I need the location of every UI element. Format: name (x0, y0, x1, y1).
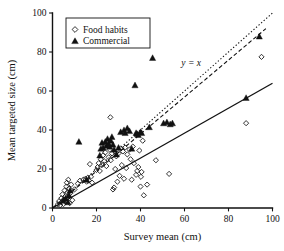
data-point-food-habits (121, 176, 126, 181)
y-tick-label-80: 80 (37, 47, 47, 57)
data-point-commercial (109, 134, 115, 140)
data-point-food-habits (87, 162, 92, 167)
data-point-food-habits (106, 155, 111, 160)
x-tick-label-80: 80 (224, 214, 234, 224)
data-point-food-habits (137, 148, 142, 153)
plot-canvas: 020406080100020406080100Survey mean (cm)… (0, 0, 284, 251)
data-point-food-habits (125, 152, 130, 157)
data-point-food-habits (129, 177, 134, 182)
data-point-food-habits (140, 138, 145, 143)
data-point-commercial (97, 152, 103, 158)
scatter-chart-figure: 020406080100020406080100Survey mean (cm)… (0, 0, 284, 251)
data-point-food-habits (138, 184, 143, 189)
data-point-food-habits (244, 121, 249, 126)
data-point-commercial (256, 33, 262, 39)
y-axis-title: Mean targeted size (cm) (6, 59, 18, 161)
data-point-food-habits (104, 163, 109, 168)
y-tick-label-0: 0 (42, 203, 47, 213)
data-point-food-habits (115, 179, 120, 184)
data-point-commercial (76, 139, 82, 145)
legend-label-commercial: Commercial (83, 36, 130, 46)
legend-label-food-habits: Food habits (83, 25, 128, 35)
x-tick-label-60: 60 (180, 214, 190, 224)
data-point-commercial (132, 82, 138, 88)
x-tick-label-20: 20 (92, 214, 102, 224)
data-point-food-habits (141, 193, 146, 198)
food-habits-fit-line (53, 83, 273, 208)
y-tick-label-100: 100 (32, 8, 47, 18)
data-point-food-habits (153, 158, 158, 163)
y-tick-label-60: 60 (37, 86, 47, 96)
data-point-food-habits (108, 115, 113, 120)
x-tick-label-0: 0 (50, 214, 55, 224)
data-point-food-habits (117, 173, 122, 178)
x-axis-title: Survey mean (cm) (124, 231, 202, 243)
x-tick-label-40: 40 (136, 214, 146, 224)
data-point-food-habits (145, 182, 150, 187)
data-point-food-habits (259, 54, 264, 59)
identity-line-label: y = x (180, 58, 201, 68)
x-tick-label-100: 100 (265, 214, 280, 224)
data-point-food-habits (167, 171, 172, 176)
data-point-food-habits (128, 157, 133, 162)
data-point-food-habits (139, 169, 144, 174)
y-tick-label-20: 20 (37, 164, 47, 174)
y-tick-label-40: 40 (37, 125, 47, 135)
data-point-commercial (150, 55, 156, 61)
